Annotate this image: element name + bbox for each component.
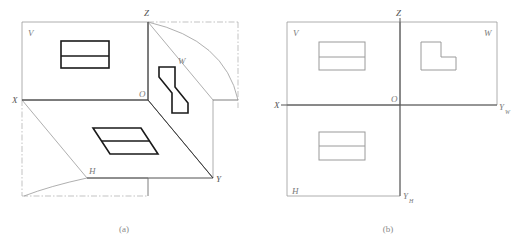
label-axis-y-a: Y [216, 174, 222, 184]
top-view-on-h-a [93, 128, 158, 154]
label-axis-x-a: X [11, 95, 18, 105]
label-plane-h-a: H [88, 166, 96, 176]
label-plane-v-b: V [293, 28, 300, 38]
front-view-on-v-a [61, 41, 109, 68]
caption-panel-a: (a) [119, 224, 129, 234]
top-view-on-h-b [319, 132, 365, 160]
label-plane-v-a: V [28, 28, 35, 38]
rotation-arc-h-plane [24, 178, 87, 196]
label-origin-b: O [391, 94, 398, 104]
unfolded-h-plane-a [87, 178, 213, 196]
panel-a: V W H O X Y Z (a) [11, 8, 238, 234]
side-view-outline-b [421, 42, 456, 70]
front-view-outline-b [319, 42, 365, 70]
front-view-outline-a [61, 41, 109, 68]
label-plane-h-b: H [291, 186, 299, 196]
label-axis-z-b: Z [396, 8, 402, 18]
panel-b: V W H O X Z Y W Y H (b) [273, 8, 511, 234]
label-axis-z-a: Z [144, 8, 150, 18]
figure-root: V W H O X Y Z (a) [0, 0, 515, 251]
rotation-arc-w-plane [148, 22, 238, 100]
label-axis-y-w-subscript: W [505, 109, 511, 115]
label-axis-y-h-b: Y H [403, 191, 414, 204]
label-axis-y-w-b: Y W [499, 102, 511, 115]
projection-planes-figure: V W H O X Y Z (a) [0, 0, 515, 251]
side-view-outline-a [159, 67, 188, 113]
caption-panel-b: (b) [383, 224, 394, 234]
panel-b-axes [281, 18, 497, 196]
label-plane-w-b: W [484, 28, 493, 38]
label-origin-a: O [139, 89, 146, 99]
side-view-on-w-b [421, 42, 456, 70]
label-axis-y-h-subscript: H [408, 198, 414, 204]
side-view-on-w-a [159, 67, 188, 113]
label-plane-w-a: W [178, 56, 187, 66]
label-axis-x-b: X [273, 100, 280, 110]
front-view-on-v-b [319, 42, 365, 70]
